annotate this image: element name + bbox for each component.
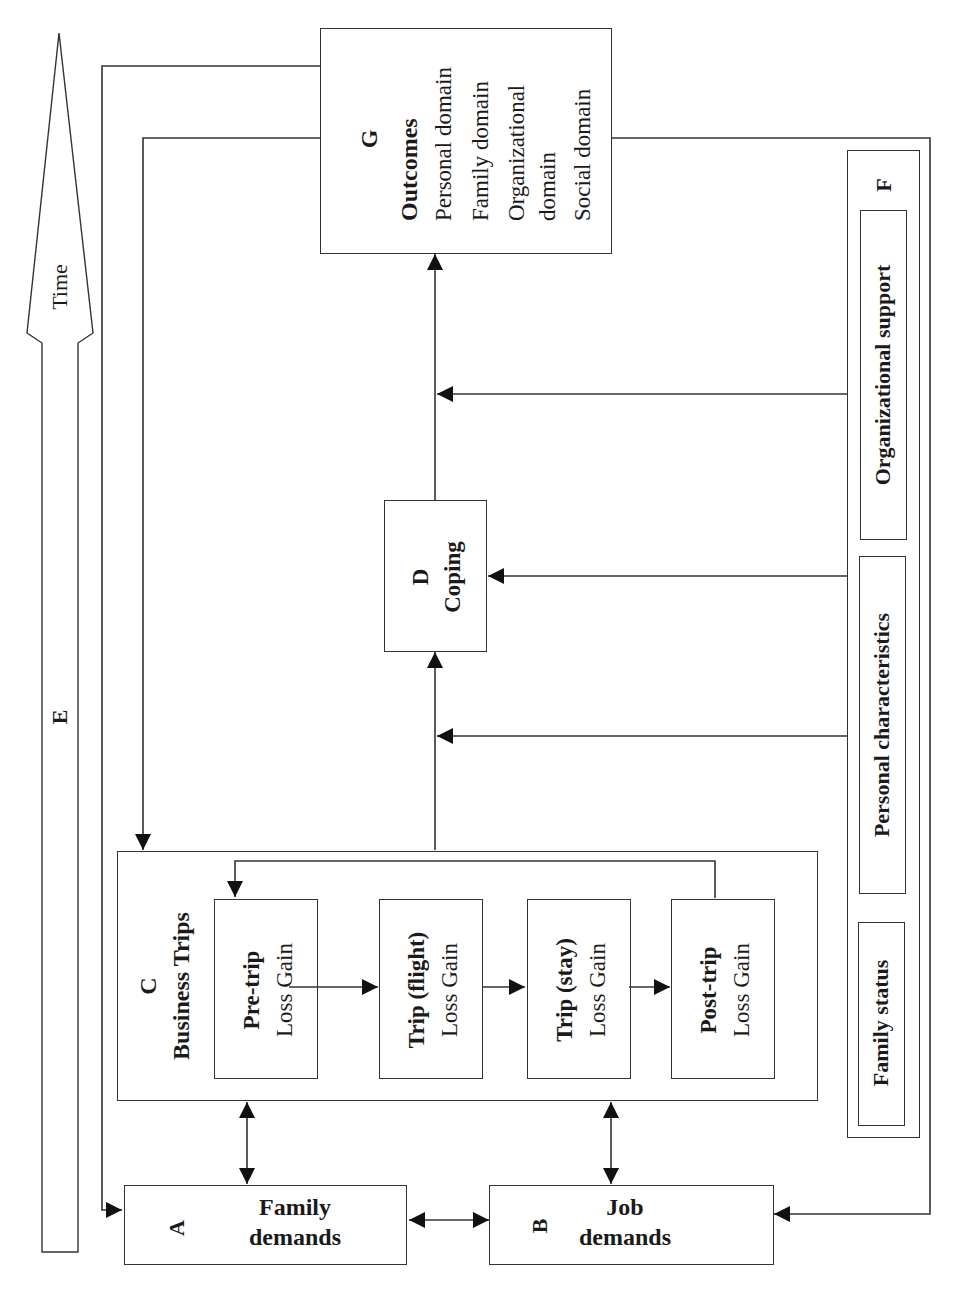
business-trips-box: C Business Trips Pre-trip Loss Gain Trip…: [117, 851, 818, 1101]
job-demands-line1: Job: [540, 1194, 710, 1222]
time-arrow-shape: [27, 33, 93, 1252]
time-label: Time: [48, 264, 73, 310]
outcome-personal: Personal domain: [431, 61, 457, 221]
moderators-box: F Organizational support Personal charac…: [847, 150, 920, 1138]
outcome-organizational: Organizational: [504, 61, 530, 221]
moderators-letter-f: F: [872, 178, 897, 191]
family-demands-letter-a: A: [164, 1220, 190, 1236]
coping-letter-d: D: [408, 569, 434, 586]
family-demands-box: A Family demands: [124, 1185, 407, 1265]
coping-box: D Coping: [384, 500, 487, 652]
stage-detail: Loss Gain: [729, 943, 755, 1037]
stage-detail: Loss Gain: [272, 943, 298, 1037]
stage-detail: Loss Gain: [437, 943, 463, 1037]
stage-pre-trip: Pre-trip Loss Gain: [214, 899, 318, 1079]
outcomes-letter-g: G: [356, 130, 383, 149]
family-demands-line1: Family: [195, 1194, 395, 1222]
stage-name: Trip (stay): [552, 938, 578, 1042]
moderator-organizational-support: Organizational support: [860, 210, 907, 540]
business-trips-letter-c: C: [135, 977, 162, 994]
stage-trip-flight: Trip (flight) Loss Gain: [379, 899, 483, 1079]
family-demands-line2: demands: [195, 1224, 395, 1252]
stage-name: Pre-trip: [239, 951, 265, 1030]
feedback-g-to-trips: [143, 138, 320, 850]
job-demands-line2: demands: [540, 1224, 710, 1252]
outcomes-box: G Outcomes Personal domain Family domain…: [320, 28, 612, 254]
moderator-personal-characteristics: Personal characteristics: [859, 556, 906, 894]
business-trips-title: Business Trips: [168, 912, 195, 1060]
outcome-family: Family domain: [468, 61, 494, 221]
stage-post-trip: Post-trip Loss Gain: [671, 899, 775, 1079]
outcomes-title: Outcomes: [396, 61, 423, 221]
outcome-organizational-cont: domain: [535, 61, 561, 221]
stage-detail: Loss Gain: [585, 943, 611, 1037]
stage-name: Post-trip: [696, 947, 722, 1034]
stage-trip-stay: Trip (stay) Loss Gain: [527, 899, 631, 1079]
coping-title: Coping: [440, 541, 466, 613]
moderator-family-status: Family status: [858, 922, 905, 1126]
job-demands-box: B Job demands: [489, 1185, 774, 1265]
outcome-social: Social domain: [570, 61, 596, 221]
time-letter-e: E: [47, 710, 73, 725]
stage-name: Trip (flight): [404, 932, 430, 1048]
